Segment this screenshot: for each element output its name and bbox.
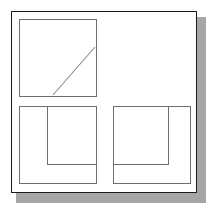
bottom-right-outer-square [114,107,191,184]
diagonal-line [53,47,95,95]
bottom-left-inner-square [48,107,97,165]
shapes-layer [0,0,214,211]
bottom-left-outer-square [20,107,97,184]
bottom-right-inner-square [114,107,169,165]
diagram-canvas [0,0,214,211]
